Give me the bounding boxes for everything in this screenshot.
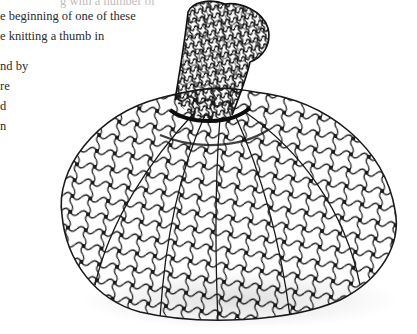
knitted-wire-photo xyxy=(0,0,417,334)
book-page: g with a number of e beginning of one of… xyxy=(0,0,417,334)
cast-shadow xyxy=(80,270,400,330)
